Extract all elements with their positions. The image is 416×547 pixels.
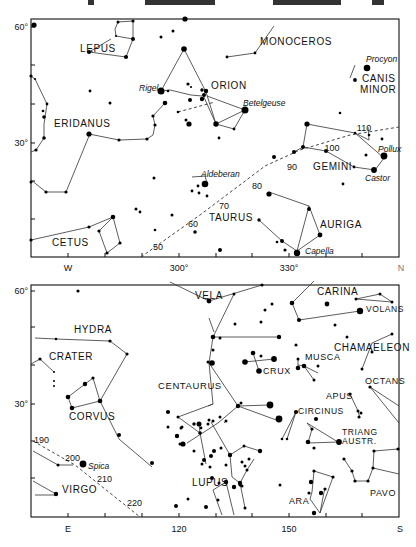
label-corvus: CORVUS [69, 411, 115, 422]
ecliptic-num-100: 100 [324, 143, 339, 153]
label-carina: CARINA [317, 286, 358, 297]
label-virgo: VIRGO [62, 484, 97, 495]
ecliptic-num-60: 60 [188, 219, 198, 229]
top-x-label-w: W [64, 263, 73, 273]
bottom-x-label-e: E [65, 524, 71, 534]
label-musca: MUSCA [305, 352, 341, 362]
star-name-procyon: Procyon [366, 54, 397, 64]
label-hydra: HYDRA [74, 324, 112, 335]
label-lepus: LEPUS [80, 43, 116, 54]
header-fragment [273, 0, 341, 5]
bottom-x-label-s: S [397, 524, 403, 534]
star-name-castor: Castor [365, 173, 391, 183]
label-pavo: PAVO [370, 488, 396, 498]
label-gemini: GEMINI [313, 161, 352, 172]
bottom-dec-label-30: 30° [14, 399, 28, 409]
label-octans: OCTANS [365, 376, 405, 386]
label-orion: ORION [211, 80, 247, 91]
label-auriga: AURIGA [320, 219, 362, 230]
bottom-dec-ticks [31, 291, 35, 478]
ecliptic-num-70: 70 [219, 201, 229, 211]
label-minor: MINOR [360, 84, 396, 95]
ecliptic-num-210: 210 [97, 474, 112, 484]
star-name-capella: Capella [305, 246, 334, 256]
label-crux: CRUX [263, 366, 291, 376]
label-volans: VOLANS [366, 304, 404, 314]
label-chamaeleon: CHAMAELEON [334, 342, 410, 353]
ecliptic-num-190: 190 [34, 435, 49, 445]
top-x-label-330: 330° [280, 263, 299, 273]
star-charts: 60° 30° W 300° 330° N [0, 0, 416, 547]
ecliptic-num-90: 90 [287, 162, 297, 172]
ecliptic-num-50: 50 [153, 242, 163, 252]
label-lupus: LUPUS [192, 477, 228, 488]
label-crater: CRATER [49, 351, 93, 362]
label-centaurus: CENTAURUS [158, 380, 222, 391]
bottom-ecliptic-line [33, 441, 140, 517]
star-name-pollux: Pollux [378, 144, 402, 154]
label-austr: AUSTR. [342, 436, 377, 446]
label-cetus: CETUS [52, 237, 89, 248]
label-apus: APUS [326, 391, 353, 401]
star-name-spica: Spica [88, 461, 110, 471]
ecliptic-num-80: 80 [252, 181, 262, 191]
label-circinus: CIRCINUS [298, 406, 344, 416]
label-monoceros: MONOCEROS [260, 36, 332, 47]
bottom-dec-label-60: 60° [14, 286, 28, 296]
top-chart: 60° 30° W 300° 330° N [14, 16, 404, 273]
bottom-chart: 60° 30° E 120 150 S [14, 281, 410, 534]
top-dec-ticks [31, 27, 35, 219]
top-x-label-300: 300° [170, 263, 189, 273]
top-x-label-n: N [398, 263, 405, 273]
label-ara: ARA [289, 496, 309, 506]
star-name-betelgeuse: Betelgeuse [243, 98, 286, 108]
header-fragment [145, 0, 215, 5]
header-fragment [372, 0, 384, 5]
top-dec-label-30: 30° [14, 138, 28, 148]
bottom-x-label-120: 120 [171, 524, 186, 534]
star-name-rigel: Rigel [139, 83, 159, 93]
ecliptic-num-200: 200 [65, 453, 80, 463]
label-canis: CANIS [362, 73, 396, 84]
label-eridanus: ERIDANUS [54, 118, 110, 129]
label-taurus: TAURUS [209, 212, 253, 223]
bottom-x-label-150: 150 [281, 524, 296, 534]
star-chart-page: 60° 30° W 300° 330° N [0, 0, 416, 547]
label-vela: VELA [195, 290, 223, 301]
ecliptic-num-220: 220 [127, 498, 142, 508]
star-name-aldeberan: Aldeberan [200, 169, 240, 179]
ecliptic-num-110: 110 [357, 123, 371, 133]
top-dec-label-60: 60° [14, 22, 28, 32]
bottom-ra-ticks [68, 513, 362, 517]
header-fragment [88, 0, 94, 5]
